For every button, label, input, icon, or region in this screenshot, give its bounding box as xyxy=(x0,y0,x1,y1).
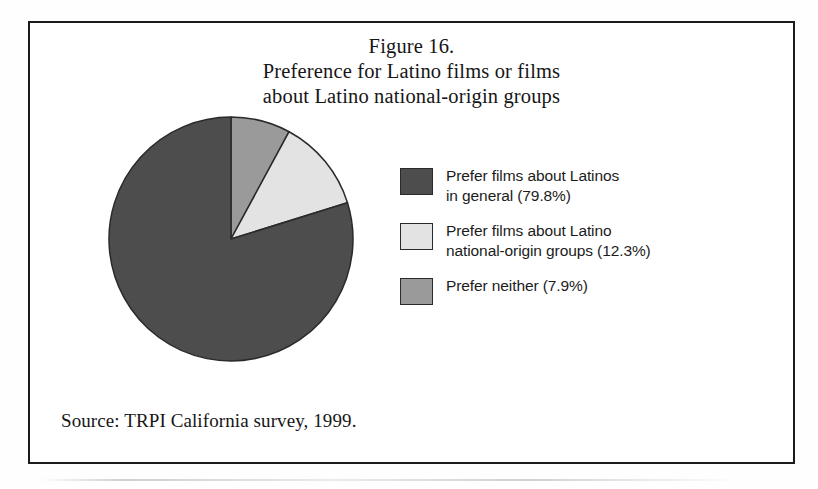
legend-label-line: Prefer films about Latino xyxy=(446,221,651,241)
legend-swatch-icon xyxy=(400,168,433,195)
legend-label-line: Prefer neither (7.9%) xyxy=(446,276,588,296)
legend-item[interactable]: Prefer neither (7.9%) xyxy=(400,276,750,305)
figure-title-line-1: Figure 16. xyxy=(30,34,793,59)
legend-swatch-icon xyxy=(400,223,433,250)
legend-item[interactable]: Prefer films about Latinos in general (7… xyxy=(400,166,750,205)
legend-label: Prefer neither (7.9%) xyxy=(446,276,588,296)
chart-legend: Prefer films about Latinos in general (7… xyxy=(400,166,750,321)
legend-swatch-icon xyxy=(400,278,433,305)
legend-label: Prefer films about Latinos in general (7… xyxy=(446,166,619,205)
legend-label-line: national-origin groups (12.3%) xyxy=(446,241,651,261)
legend-item[interactable]: Prefer films about Latino national-origi… xyxy=(400,221,750,260)
legend-label-line: in general (79.8%) xyxy=(446,186,619,206)
scan-artifact xyxy=(40,479,740,481)
scanned-page: Figure 16. Preference for Latino films o… xyxy=(0,0,818,489)
legend-label-line: Prefer films about Latinos xyxy=(446,166,619,186)
pie-chart xyxy=(106,114,356,364)
figure-title: Figure 16. Preference for Latino films o… xyxy=(30,34,793,109)
pie-chart-svg xyxy=(106,114,356,364)
figure-title-line-2: Preference for Latino films or films xyxy=(30,59,793,84)
figure-title-line-3: about Latino national-origin groups xyxy=(30,84,793,109)
figure-frame: Figure 16. Preference for Latino films o… xyxy=(28,21,795,464)
legend-label: Prefer films about Latino national-origi… xyxy=(446,221,651,260)
source-note: Source: TRPI California survey, 1999. xyxy=(61,409,357,432)
